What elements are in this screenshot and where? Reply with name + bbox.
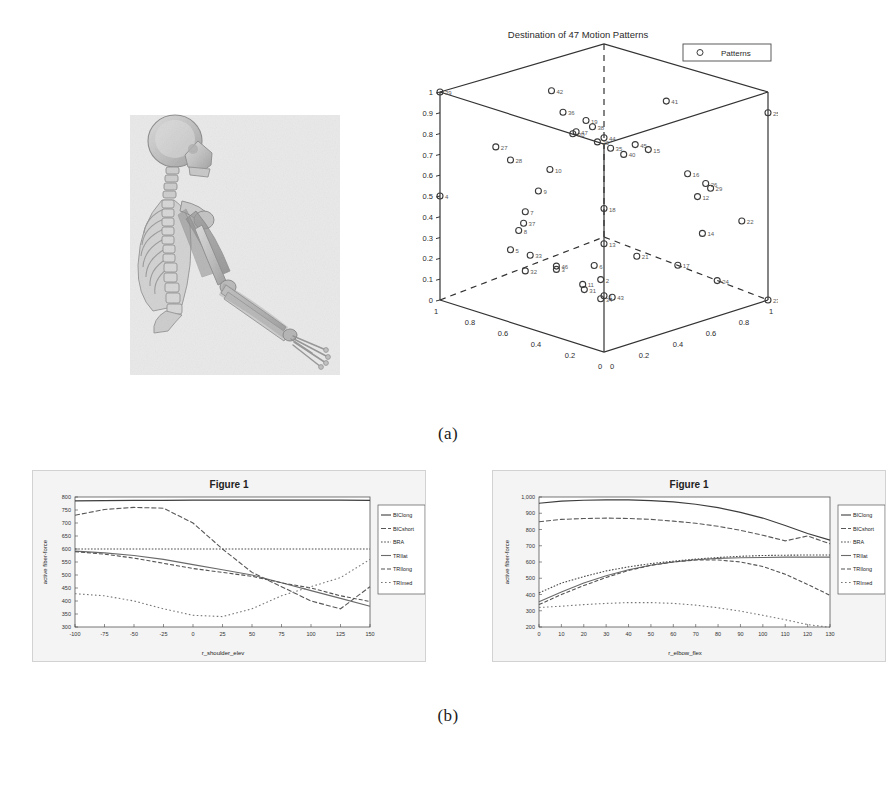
scatter3d-point: 37 (521, 220, 536, 227)
svg-text:700: 700 (62, 520, 71, 526)
svg-text:125: 125 (336, 631, 345, 637)
svg-text:800: 800 (526, 527, 535, 533)
figure-legend-left[interactable]: BIClongBICshortBRATRIlatTRIlongTRImed (378, 505, 425, 594)
svg-text:14: 14 (707, 231, 714, 237)
svg-text:16: 16 (693, 172, 700, 178)
svg-text:1: 1 (769, 307, 773, 316)
svg-text:9: 9 (543, 189, 547, 195)
svg-text:29: 29 (716, 186, 723, 192)
svg-text:47: 47 (581, 130, 588, 136)
svg-text:22: 22 (747, 219, 754, 225)
svg-text:30: 30 (603, 631, 609, 637)
svg-text:110: 110 (781, 631, 790, 637)
legend-entry-label: BIClong (393, 512, 412, 518)
scatter3d-point: 28 (508, 157, 523, 164)
svg-text:-100: -100 (69, 631, 80, 637)
scatter3d-point: 40 (621, 151, 636, 158)
svg-text:700: 700 (526, 543, 535, 549)
svg-text:1: 1 (434, 307, 438, 316)
legend-entry-label: BICshort (393, 526, 414, 532)
scatter3d-point: 35 (608, 145, 623, 152)
legend-entry-label: BRA (393, 539, 404, 545)
matlab-figure-shoulder[interactable]: Figure 1 3003504004505005506006507007508… (32, 470, 426, 662)
scatter3d-point: 41 (663, 98, 678, 105)
scatter3d-legend[interactable]: Patterns (683, 44, 771, 61)
svg-text:35: 35 (616, 146, 623, 152)
musculoskeletal-arm-model (90, 105, 360, 380)
svg-text:0.1: 0.1 (423, 275, 433, 284)
legend-entry-label: TRIlong (853, 566, 872, 572)
scatter3d-point: 14 (699, 230, 714, 237)
svg-text:0.9: 0.9 (423, 109, 433, 118)
scatter3d-point: 9 (535, 188, 547, 195)
svg-text:1,000: 1,000 (521, 494, 535, 500)
svg-text:7: 7 (530, 210, 534, 216)
svg-text:130: 130 (825, 631, 834, 637)
svg-text:0.2: 0.2 (565, 351, 575, 360)
svg-text:550: 550 (62, 559, 71, 565)
figure-title-right: Figure 1 (670, 479, 709, 490)
caption-b: (b) (0, 706, 896, 726)
scatter3d-point: 17 (675, 262, 690, 269)
svg-text:-50: -50 (130, 631, 138, 637)
scatter3d-point: 38 (590, 124, 605, 131)
svg-text:0.8: 0.8 (739, 318, 749, 327)
svg-text:4: 4 (445, 194, 449, 200)
scatter3d-point: 24 (714, 278, 729, 285)
svg-text:75: 75 (278, 631, 284, 637)
svg-text:90: 90 (737, 631, 743, 637)
svg-text:500: 500 (526, 575, 535, 581)
legend-entry-label: TRIlong (393, 566, 412, 572)
matlab-figure-elbow[interactable]: Figure 1 2003004005006007008009001,00001… (492, 470, 886, 662)
svg-text:-25: -25 (160, 631, 168, 637)
svg-text:5: 5 (516, 248, 520, 254)
scatter3d-point: 44 (601, 135, 616, 142)
scatter3d-point: 6 (591, 263, 603, 270)
svg-text:0.6: 0.6 (706, 329, 716, 338)
svg-text:0: 0 (429, 296, 433, 305)
scatter3d-point: 8 (516, 228, 528, 235)
svg-text:300: 300 (526, 608, 535, 614)
scatter3d-point: 27 (493, 144, 508, 151)
svg-text:13: 13 (609, 242, 616, 248)
svg-text:0.6: 0.6 (498, 329, 508, 338)
svg-text:150: 150 (365, 631, 374, 637)
figure-legend-right[interactable]: BIClongBICshortBRATRIlatTRIlongTRImed (838, 505, 885, 594)
svg-text:750: 750 (62, 507, 71, 513)
svg-text:23: 23 (773, 298, 778, 304)
svg-text:0.2: 0.2 (423, 254, 433, 263)
legend-entry-label: BIClong (853, 512, 872, 518)
svg-text:500: 500 (62, 572, 71, 578)
svg-text:42: 42 (557, 89, 564, 95)
scatter3d-point: 25 (765, 110, 778, 117)
svg-text:800: 800 (62, 494, 71, 500)
scatter3d-point: 19 (583, 118, 598, 125)
scatter3d-point: 18 (601, 206, 616, 213)
svg-text:400: 400 (62, 598, 71, 604)
svg-text:-75: -75 (101, 631, 109, 637)
svg-text:0.7: 0.7 (423, 151, 433, 160)
svg-text:200: 200 (526, 624, 535, 630)
svg-text:0.4: 0.4 (531, 340, 541, 349)
scatter3d-point: 7 (522, 209, 534, 216)
svg-text:70: 70 (693, 631, 699, 637)
legend-entry-label: TRIlat (393, 553, 408, 559)
legend-entry-label: BICshort (853, 526, 874, 532)
scatter3d-point: 34 (598, 296, 613, 303)
legend-entry-label: TRImed (853, 580, 872, 586)
scatter3d-point: 45 (632, 142, 647, 149)
scatter3d-point: 21 (634, 253, 649, 260)
svg-text:24: 24 (722, 279, 729, 285)
scatter3d-plot: Destination of 47 Motion Patterns Patter… (378, 22, 778, 392)
svg-text:15: 15 (653, 148, 660, 154)
svg-text:50: 50 (648, 631, 654, 637)
svg-text:20: 20 (581, 631, 587, 637)
legend-entry-label: BRA (853, 539, 864, 545)
svg-text:40: 40 (629, 152, 636, 158)
subfigure-b: Figure 1 3003504004505005506006507007508… (0, 470, 896, 695)
svg-text:1: 1 (429, 88, 433, 97)
figure-xlabel-right: r_elbow_flex (668, 650, 702, 656)
scatter3d-point: 36 (560, 109, 575, 116)
scatter3d-point: 13 (601, 241, 616, 248)
scatter3d-point: 16 (685, 171, 700, 178)
